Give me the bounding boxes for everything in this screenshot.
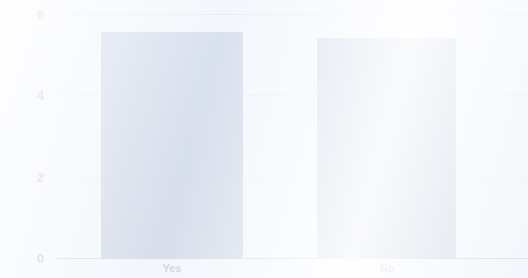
bar-chart: 6 4 2 0 Yes No xyxy=(0,0,528,278)
plot-area xyxy=(0,0,528,278)
ytick-label-0: 0 xyxy=(0,252,44,265)
bar-no xyxy=(317,38,456,258)
xtick-label-yes: Yes xyxy=(163,263,182,274)
gridline-6 xyxy=(57,14,528,15)
xtick-label-no: No xyxy=(380,263,395,274)
ytick-label-2: 2 xyxy=(0,171,44,184)
axis-baseline xyxy=(57,258,528,259)
bar-yes xyxy=(101,32,243,258)
ytick-label-6: 6 xyxy=(0,8,44,21)
ytick-label-4: 4 xyxy=(0,89,44,102)
